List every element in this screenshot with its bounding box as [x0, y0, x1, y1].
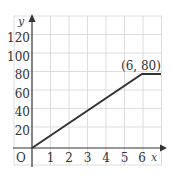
- x-tick: 3: [84, 151, 92, 165]
- x-axis-arrow-icon: [160, 145, 167, 152]
- y-tick: 60: [15, 87, 30, 101]
- y-tick: 40: [15, 105, 30, 119]
- chart: y x O 20 40 60 80 100 120 1 2 3 4 5 6 (6…: [0, 0, 173, 179]
- x-tick: 4: [102, 151, 110, 165]
- y-tick: 100: [7, 50, 30, 64]
- grid: [14, 16, 162, 165]
- x-axis-label: x: [151, 151, 158, 164]
- chart-svg: y x O 20 40 60 80 100 120 1 2 3 4 5 6 (6…: [0, 0, 173, 179]
- y-tick: 80: [15, 68, 30, 82]
- x-tick-labels: 1 2 3 4 5 6: [47, 151, 146, 165]
- point-annotation: (6, 80): [121, 59, 161, 73]
- x-tick: 5: [121, 151, 129, 165]
- x-tick: 1: [47, 151, 55, 165]
- series-line: [32, 74, 161, 148]
- y-tick: 120: [7, 31, 30, 45]
- origin-label: O: [16, 151, 26, 165]
- y-axis-label: y: [17, 15, 25, 28]
- x-tick: 6: [138, 151, 146, 165]
- x-tick: 2: [65, 151, 73, 165]
- y-tick: 20: [15, 124, 30, 138]
- y-axis-arrow-icon: [29, 14, 36, 22]
- y-tick-labels: 20 40 60 80 100 120: [7, 31, 30, 138]
